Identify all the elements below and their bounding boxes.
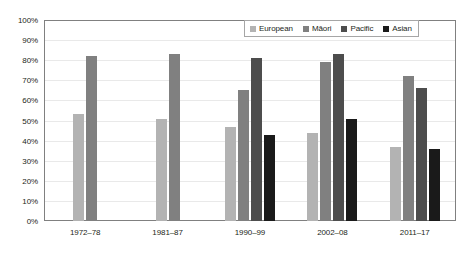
- y-axis-tick-label: 0%: [27, 217, 38, 226]
- chart-legend: EuropeanMāoriPacificAsian: [244, 20, 419, 37]
- y-axis-tick-label: 70%: [22, 76, 38, 85]
- legend-swatch-icon: [383, 26, 389, 32]
- bar-group: [44, 20, 126, 221]
- x-axis-tick-label: 2011–17: [400, 228, 430, 237]
- x-axis-tick-label: 1990–99: [235, 228, 265, 237]
- y-axis-tick-label: 80%: [22, 56, 38, 65]
- bar-pacific: [416, 88, 427, 221]
- bar-asian: [264, 135, 275, 221]
- x-axis-tick-label: 1981–87: [152, 228, 182, 237]
- y-axis-tick-label: 100%: [18, 16, 38, 25]
- bar-european: [225, 127, 236, 221]
- legend-item-label: Asian: [392, 24, 412, 33]
- y-axis-tick-label: 10%: [22, 196, 38, 205]
- bar-group: [126, 20, 208, 221]
- x-axis-tick-label: 1972–78: [70, 228, 100, 237]
- bar-maori: [86, 56, 97, 221]
- legend-swatch-icon: [341, 26, 347, 32]
- legend-item: Pacific: [341, 24, 373, 33]
- legend-item-label: Pacific: [350, 24, 373, 33]
- legend-swatch-icon: [250, 26, 256, 32]
- legend-item-label: Māori: [312, 24, 332, 33]
- y-axis-tick-label: 40%: [22, 136, 38, 145]
- y-axis-tick-label: 50%: [22, 116, 38, 125]
- y-axis: 100%90%80%70%60%50%40%30%20%10%0%: [0, 0, 44, 226]
- y-axis-tick-label: 20%: [22, 176, 38, 185]
- legend-item: Māori: [303, 24, 332, 33]
- bar-maori: [320, 62, 331, 221]
- y-axis-tick-label: 60%: [22, 96, 38, 105]
- legend-item: Asian: [383, 24, 412, 33]
- x-axis-tick-label: 2002–08: [317, 228, 347, 237]
- bars-layer: [44, 20, 456, 221]
- x-axis: 1972–781981–871990–992002–082011–17: [44, 221, 456, 243]
- bar-maori: [403, 76, 414, 221]
- bar-pacific: [251, 58, 262, 221]
- bar-asian: [429, 149, 440, 221]
- legend-item-label: European: [259, 24, 293, 33]
- bar-group: [374, 20, 456, 221]
- bar-european: [156, 119, 167, 222]
- bar-maori: [238, 90, 249, 221]
- bar-maori: [169, 54, 180, 221]
- bar-asian: [346, 119, 357, 222]
- bar-chart: 100%90%80%70%60%50%40%30%20%10%0% 1972–7…: [0, 0, 471, 254]
- legend-swatch-icon: [303, 26, 309, 32]
- bar-group: [209, 20, 291, 221]
- bar-european: [390, 147, 401, 221]
- bar-european: [307, 133, 318, 221]
- bar-group: [291, 20, 373, 221]
- bar-european: [73, 114, 84, 221]
- y-axis-tick-label: 90%: [22, 36, 38, 45]
- bar-pacific: [333, 54, 344, 221]
- y-axis-tick-label: 30%: [22, 156, 38, 165]
- legend-item: European: [250, 24, 293, 33]
